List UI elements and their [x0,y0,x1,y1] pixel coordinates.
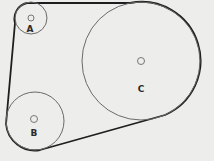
pulley-a-hub [28,15,34,21]
pulley-c: C [82,2,200,120]
diagram-canvas: A B C [0,0,214,161]
pulley-a-label: A [27,24,34,34]
pulley-b-rim [6,92,64,150]
pulley-c-hub [138,58,145,65]
pulley-a: A [15,2,47,34]
pulley-c-rim [82,2,200,120]
pulley-c-label: C [138,84,145,94]
pulley-b-hub [31,116,38,123]
pulley-b-label: B [31,128,38,138]
belt-pulley-diagram: A B C [0,0,214,161]
pulley-b: B [6,92,64,150]
